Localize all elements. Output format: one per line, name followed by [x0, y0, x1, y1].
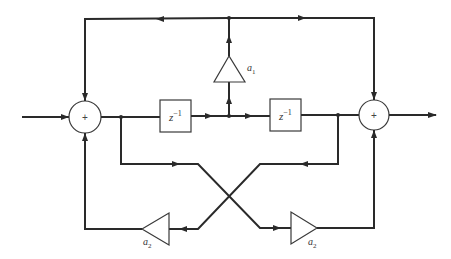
adder-left-symbol: + [82, 112, 88, 123]
arrow-cross-top-left [172, 161, 180, 167]
arrow-a1-in [226, 96, 232, 104]
arrow-left-adder-bottom [82, 133, 88, 141]
gain-a1-subscript: 1 [252, 68, 256, 76]
arrow-left-adder-top [82, 93, 88, 101]
adder-right: + [359, 100, 389, 130]
arrow-mid-out [245, 113, 253, 119]
wire-a2-left-to-adder [85, 133, 142, 229]
wire-top-right [229, 18, 374, 100]
delay-block-2: z−1 [270, 99, 301, 131]
svg-text:a1: a1 [247, 62, 256, 76]
adder-left: + [69, 101, 101, 133]
arrow-cross-bottom-left [179, 226, 187, 232]
delay-1-exponent: −1 [173, 109, 182, 118]
wire-a2-right-to-adder [317, 130, 374, 228]
arrow-a1-out [226, 35, 232, 43]
gain-a1-triangle [214, 56, 245, 82]
delay-block-1: z−1 [160, 100, 191, 132]
gain-a2-left-subscript: 2 [148, 242, 152, 250]
svg-text:a2: a2 [308, 236, 317, 250]
gain-a2-right-triangle [291, 212, 317, 244]
gain-a2-right-subscript: 2 [313, 242, 317, 250]
input-arrow [61, 114, 69, 120]
arrow-top-left [156, 16, 164, 22]
wire-top-left [85, 18, 229, 101]
wire-cross-left-to-right [121, 117, 291, 228]
wire-cross-right-to-left [169, 115, 338, 229]
delay-2-exponent: −1 [283, 108, 292, 117]
arrow-right-adder-bottom [371, 130, 377, 138]
block-diagram: + z−1 z−1 + a1 a [0, 0, 451, 259]
arrow-top-right [298, 15, 306, 21]
output-arrow [428, 112, 437, 118]
arrow-delay1-out [205, 113, 213, 119]
svg-text:a2: a2 [143, 236, 152, 250]
arrow-cross-top-right [300, 161, 308, 167]
adder-right-symbol: + [371, 110, 377, 121]
arrow-cross-bottom-right [273, 225, 281, 231]
arrow-right-adder-top [371, 92, 377, 100]
